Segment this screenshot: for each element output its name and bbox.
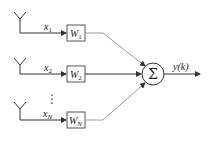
signal-label: xN	[42, 108, 52, 121]
antenna-icon	[14, 102, 26, 120]
weight-to-sum-line	[85, 83, 145, 120]
beamformer-diagram: x1 W1 x2 W2 ⋮ xN WN Σ y(k)	[0, 0, 208, 141]
sum-symbol: Σ	[148, 66, 158, 82]
signal-label: x2	[43, 62, 52, 75]
antenna-icon	[14, 12, 26, 33]
output-label: y(k)	[172, 61, 189, 73]
antenna-icon	[14, 58, 26, 74]
ellipsis: ⋮	[46, 92, 58, 106]
branch-2: x2 W2	[14, 58, 141, 82]
branch-n: xN WN	[14, 83, 145, 128]
branch-1: x1 W1	[14, 12, 145, 66]
weight-to-sum-line	[85, 33, 145, 66]
signal-label: x1	[43, 21, 52, 34]
summation-node: Σ	[142, 63, 164, 85]
